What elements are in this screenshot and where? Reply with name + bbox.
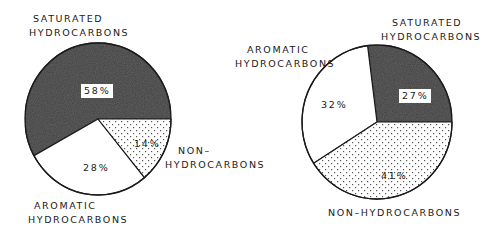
right-value-non: 41% <box>381 170 408 182</box>
right-value-aromatic: 32% <box>321 99 348 111</box>
left-label-aromatic-line2: HYDROCARBONS <box>28 213 128 227</box>
left-label-saturated-line1: SATURATED <box>33 12 103 26</box>
left-value-saturated: 58% <box>81 84 113 98</box>
left-label-non-line2: HYDROCARBONS <box>165 158 265 172</box>
right-label-aromatic-line1: AROMATIC <box>247 43 310 57</box>
left-label-saturated-line2: HYDROCARBONS <box>29 26 129 40</box>
right-label-aromatic-line2: HYDROCARBONS <box>235 57 335 71</box>
left-label-aromatic-line1: AROMATIC <box>34 199 97 213</box>
left-label-non-line1: NON– <box>178 144 211 158</box>
chart-figure: SATURATED HYDROCARBONS 58% 28% 14% NON– … <box>0 0 494 231</box>
right-label-non: NON–HYDROCARBONS <box>328 206 461 220</box>
slice-saturated <box>368 45 452 122</box>
left-value-aromatic: 28% <box>83 162 110 174</box>
right-value-saturated: 27% <box>399 89 431 103</box>
right-label-saturated-line1: SATURATED <box>392 16 462 30</box>
left-value-non: 14% <box>134 138 161 150</box>
right-label-saturated-line2: HYDROCARBONS <box>381 30 481 44</box>
